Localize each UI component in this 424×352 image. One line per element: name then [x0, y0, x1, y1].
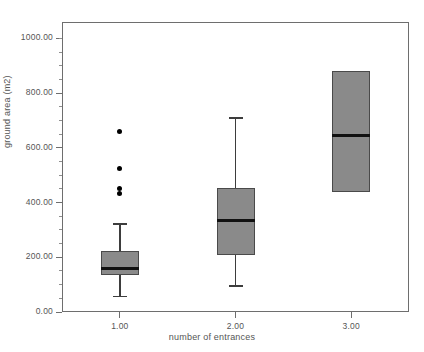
y-axis-title: ground area (m2): [2, 28, 12, 148]
upper-whisker-line: [119, 223, 121, 251]
median-line: [101, 267, 139, 270]
y-tick-mark: [56, 312, 62, 313]
x-tick-label: 2.00: [212, 321, 260, 331]
lower-whisker-line: [119, 275, 121, 296]
y-minor-tick-mark: [59, 229, 62, 230]
y-minor-tick-mark: [59, 65, 62, 66]
y-minor-tick-mark: [59, 188, 62, 189]
y-minor-tick-mark: [59, 270, 62, 271]
y-tick-mark: [56, 202, 62, 203]
upper-whisker-line: [235, 117, 237, 187]
y-minor-tick-mark: [59, 298, 62, 299]
y-minor-tick-mark: [59, 284, 62, 285]
x-tick-label: 1.00: [96, 321, 144, 331]
upper-whisker-cap: [113, 223, 127, 225]
x-axis-title: number of entrances: [0, 332, 424, 342]
y-minor-tick-mark: [59, 243, 62, 244]
y-minor-tick-mark: [59, 79, 62, 80]
y-minor-tick-mark: [59, 38, 62, 39]
y-tick-mark: [56, 93, 62, 94]
lower-whisker-cap: [113, 296, 127, 298]
y-tick-label: 600.00: [26, 142, 53, 152]
x-tick-mark: [235, 312, 236, 318]
y-tick-label: 200.00: [26, 251, 53, 261]
lower-whisker-line: [235, 255, 237, 286]
y-minor-tick-mark: [59, 216, 62, 217]
lower-whisker-cap: [229, 285, 243, 287]
y-minor-tick-mark: [59, 106, 62, 107]
x-tick-mark: [119, 312, 120, 318]
y-minor-tick-mark: [59, 175, 62, 176]
y-tick-label: 0.00: [36, 306, 53, 316]
box-iqr-rect: [332, 71, 370, 191]
y-minor-tick-mark: [59, 52, 62, 53]
upper-whisker-cap: [229, 117, 243, 119]
box-plot-chart: ground area (m2) 0.00200.00400.00600.008…: [0, 0, 424, 352]
y-minor-tick-mark: [59, 120, 62, 121]
y-tick-mark: [56, 147, 62, 148]
y-tick-mark: [56, 257, 62, 258]
box-iqr-rect: [101, 251, 139, 274]
median-line: [332, 134, 370, 137]
y-minor-tick-mark: [59, 161, 62, 162]
y-tick-label: 1000.00: [21, 32, 53, 42]
y-minor-tick-mark: [59, 134, 62, 135]
x-tick-label: 3.00: [327, 321, 375, 331]
y-tick-label: 400.00: [26, 197, 53, 207]
x-tick-mark: [351, 312, 352, 318]
median-line: [217, 219, 255, 222]
y-tick-label: 800.00: [26, 87, 53, 97]
